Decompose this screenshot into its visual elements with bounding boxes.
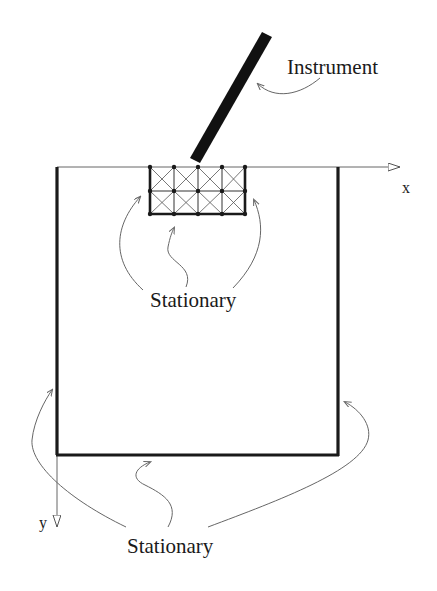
instrument-label: Instrument xyxy=(287,55,378,79)
bottom-arrow-left-wall xyxy=(32,390,126,527)
diagram-canvas: x y xyxy=(0,0,437,591)
bottom-arrow-floor xyxy=(136,462,172,527)
bottom-arrow-right-wall xyxy=(208,402,369,527)
stationary-label-top: Stationary xyxy=(150,288,237,312)
x-axis-label: x xyxy=(402,179,410,196)
stationary-arrow-mid xyxy=(168,228,188,287)
instrument-bar xyxy=(190,32,272,163)
mesh-grid xyxy=(148,165,247,216)
stationary-arrow-left xyxy=(120,197,143,290)
instrument-arrow xyxy=(258,78,320,94)
y-axis-label: y xyxy=(39,514,47,532)
stationary-label-bottom: Stationary xyxy=(127,534,214,558)
